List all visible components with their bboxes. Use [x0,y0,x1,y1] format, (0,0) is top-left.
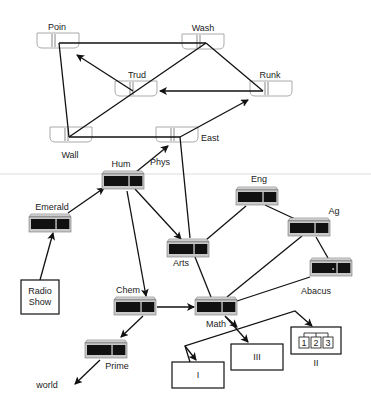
server-label: Math [206,319,226,329]
box-box1[interactable]: I [172,362,224,388]
box-box3[interactable]: III [231,344,283,370]
boxes: RadioShowIIII123II [21,280,341,388]
node-runk[interactable]: Runk [250,70,292,96]
server-label: Emerald [35,202,69,212]
server-emerald[interactable]: Emerald [29,202,71,232]
server-math[interactable]: Math [195,297,237,329]
node-label: Wash [192,23,215,33]
sub-box-label: 3 [325,338,330,348]
box-radio[interactable]: RadioShow [21,280,59,314]
node-east[interactable]: East [156,127,220,143]
label-phys: Phys [150,157,171,167]
server-arts[interactable]: Arts [167,239,209,268]
node-label: Trud [128,70,146,80]
box-label: II [313,358,318,368]
node-wall[interactable]: Wall [50,127,92,160]
box-label-line: Show [29,297,52,307]
box-box2[interactable]: 123II [291,327,341,368]
box-label: I [197,370,200,380]
server-label: Arts [173,258,190,268]
node-label: East [201,133,220,143]
label-world: world [35,380,58,390]
node-label: Runk [259,70,281,80]
diagram-canvas: PoinWashTrudRunkWallEast HumEmeraldEngAg… [0,0,371,411]
network-diagram: PoinWashTrudRunkWallEast HumEmeraldEngAg… [0,0,371,411]
server-eng[interactable]: Eng [236,174,278,205]
box-label-line: Radio [28,286,52,296]
node-label: Poin [48,22,66,32]
server-label: Prime [105,361,129,371]
sub-box-label: 1 [301,338,306,348]
server-label: Hum [111,159,130,169]
server-label: Abacus [301,286,332,296]
node-poin[interactable]: Poin [37,22,79,48]
server-prime[interactable]: Prime [85,340,129,371]
server-label: Chem [116,285,140,295]
server-label: Eng [251,174,267,184]
sub-box-label: 2 [313,338,318,348]
server-hum[interactable]: Hum [102,159,144,189]
node-label: Wall [61,150,78,160]
server-chem[interactable]: Chem [114,285,156,315]
server-ag[interactable]: Ag [288,206,340,236]
server-label: Ag [328,206,339,216]
box-label: III [253,352,261,362]
